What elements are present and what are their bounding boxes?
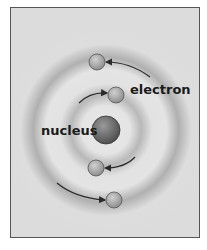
- nucleus-label: nucleus: [41, 124, 97, 137]
- electron-1: [89, 54, 105, 70]
- electron-2: [108, 87, 124, 103]
- atom-diagram: [0, 0, 207, 250]
- electron-3: [88, 160, 104, 176]
- electron-label: electron: [130, 83, 191, 96]
- electron-4: [106, 192, 122, 208]
